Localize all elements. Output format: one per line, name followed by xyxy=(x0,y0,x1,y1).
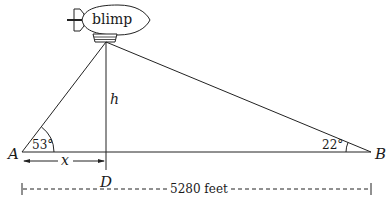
side-AC xyxy=(22,42,106,152)
blimp-label: blimp xyxy=(92,11,132,27)
distance-label: 5280 feet xyxy=(170,182,228,196)
side-CB xyxy=(106,42,371,152)
blimp-triangle-diagram: blimp 53° 22° h A B D x 5280 feet xyxy=(0,0,386,199)
x-label: x xyxy=(61,152,69,168)
point-label-A: A xyxy=(6,145,19,163)
point-label-B: B xyxy=(374,145,386,163)
angle-arc-B xyxy=(346,143,348,153)
angle-label-A: 53° xyxy=(32,138,53,152)
height-label: h xyxy=(110,91,119,107)
angle-label-B: 22° xyxy=(322,138,343,152)
point-label-D: D xyxy=(99,173,112,191)
